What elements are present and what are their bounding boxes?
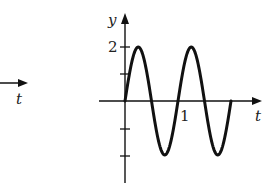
axes: y 2 1 t — [99, 11, 262, 183]
y-tick-label-2: 2 — [108, 38, 118, 56]
left-axis-arrow-icon — [18, 79, 28, 87]
chart-canvas: t y 2 1 t — [0, 0, 262, 185]
y-axis-label: y — [107, 11, 117, 29]
y-axis-arrow-icon — [121, 13, 129, 24]
left-axis-label: t — [16, 90, 23, 108]
left-fragment: t — [0, 79, 28, 108]
x-axis-label: t — [255, 107, 262, 125]
x-axis-arrow-icon — [252, 97, 262, 105]
x-tick-label-1: 1 — [180, 107, 190, 125]
